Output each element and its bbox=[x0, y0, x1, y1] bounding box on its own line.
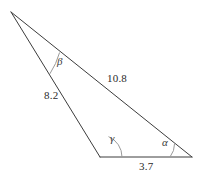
angle-label-beta: β bbox=[57, 56, 62, 67]
angle-label-gamma: γ bbox=[110, 133, 114, 144]
side-length-label-right: 10.8 bbox=[107, 73, 127, 84]
side-length-label-left: 8.2 bbox=[44, 90, 58, 101]
triangle-diagram: 8.2 10.8 3.7 β γ α bbox=[0, 0, 200, 176]
side-length-label-base: 3.7 bbox=[139, 161, 153, 172]
side-left-line bbox=[11, 12, 100, 157]
angle-label-alpha: α bbox=[162, 137, 168, 148]
angle-arc-alpha bbox=[170, 143, 175, 157]
triangle-figure bbox=[0, 0, 200, 176]
